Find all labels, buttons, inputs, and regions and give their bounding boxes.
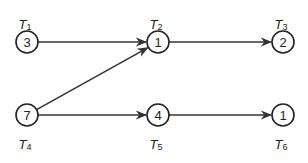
node-label: T3 [275, 17, 288, 33]
node-value: 1 [154, 35, 161, 50]
node-value: 4 [154, 108, 161, 123]
node-t2: 1T2 [147, 17, 169, 54]
node-value: 2 [279, 35, 286, 50]
node-value: 7 [23, 108, 30, 123]
node-t5: 4T5 [147, 104, 169, 152]
node-label: T6 [275, 137, 288, 153]
node-label: T4 [19, 137, 32, 153]
node-label: T1 [19, 17, 32, 33]
node-value: 3 [23, 35, 30, 50]
node-value: 1 [279, 108, 286, 123]
node-t4: 7T4 [16, 104, 38, 152]
task-graph: 3T11T22T37T44T51T6 [0, 0, 308, 163]
node-t1: 3T1 [16, 17, 38, 54]
node-t3: 2T3 [272, 17, 294, 54]
node-label: T2 [150, 17, 163, 33]
edge-t4-t2 [37, 48, 148, 110]
nodes: 3T11T22T37T44T51T6 [16, 17, 294, 153]
node-t6: 1T6 [272, 104, 294, 152]
node-label: T5 [150, 137, 163, 153]
